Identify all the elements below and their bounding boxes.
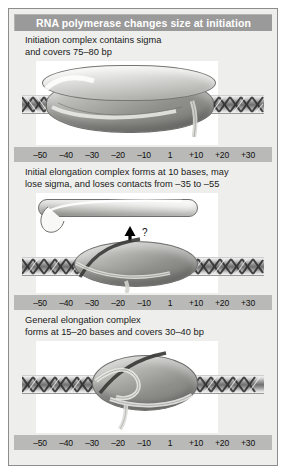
panel-3-scale: –50 –40 –30 –20 –10 1 +10 +20 +30 xyxy=(14,435,272,450)
scale-label: +30 xyxy=(235,438,261,448)
scale-label: –40 xyxy=(53,150,79,160)
panel-1-caption: Initiation complex contains sigma and co… xyxy=(25,35,161,58)
scale-label: +30 xyxy=(235,150,261,160)
scale-label: –10 xyxy=(131,298,157,308)
panel-3-caption: General elongation complex forms at 15–2… xyxy=(25,315,204,338)
scale-label: +20 xyxy=(209,438,235,448)
panel-1-scale: –50 –40 –30 –20 –10 1 +10 +20 +30 xyxy=(14,147,272,162)
scale-label: –50 xyxy=(27,150,53,160)
figure-container: RNA polymerase changes size at initiatio… xyxy=(8,8,278,466)
panel-1-strand-overlay xyxy=(36,63,226,143)
scale-label: +10 xyxy=(183,150,209,160)
scale-label: –20 xyxy=(105,298,131,308)
panel-2-strand-overlay xyxy=(66,233,208,293)
scale-label: –30 xyxy=(79,150,105,160)
scale-label: –10 xyxy=(131,150,157,160)
scale-label: –20 xyxy=(105,438,131,448)
panel-3-diagram xyxy=(14,341,272,433)
panel-1-diagram xyxy=(14,61,272,145)
scale-label: –30 xyxy=(79,438,105,448)
scale-label: –10 xyxy=(131,438,157,448)
scale-label: –40 xyxy=(53,298,79,308)
panel-2-diagram: ? xyxy=(14,193,272,293)
scale-label: 1 xyxy=(157,150,183,160)
figure-title: RNA polymerase changes size at initiatio… xyxy=(14,14,272,31)
panel-3-strand-overlay xyxy=(80,347,214,431)
scale-label: +10 xyxy=(183,438,209,448)
scale-label: +10 xyxy=(183,298,209,308)
panel-2-caption: Initial elongation complex forms at 10 b… xyxy=(25,167,229,190)
panel-2-scale: –50 –40 –30 –20 –10 1 +10 +20 +30 xyxy=(14,295,272,310)
scale-label: –40 xyxy=(53,438,79,448)
scale-label: –50 xyxy=(27,298,53,308)
scale-label: –50 xyxy=(27,438,53,448)
scale-label: –30 xyxy=(79,298,105,308)
scale-label: 1 xyxy=(157,298,183,308)
scale-label: +20 xyxy=(209,298,235,308)
scale-label: +30 xyxy=(235,298,261,308)
scale-label: 1 xyxy=(157,438,183,448)
scale-label: +20 xyxy=(209,150,235,160)
panel-2-sigma-tail xyxy=(32,195,208,237)
scale-label: –20 xyxy=(105,150,131,160)
